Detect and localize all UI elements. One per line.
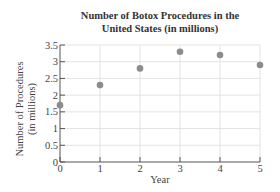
x-tick-label: 0 [57,163,62,174]
x-tick-label: 1 [97,163,102,174]
y-tick-label: 1.5 [45,106,58,117]
x-tick-label: 5 [257,163,262,174]
y-tick-label: 3 [53,56,58,67]
y-tick-label: 2.5 [45,73,58,84]
data-point [177,48,184,55]
y-axis-label: Number of Procedures (in millions) [14,49,38,169]
data-point [57,102,64,109]
y-tick-label: 0.5 [45,140,58,151]
y-tick-label: 3.5 [45,40,58,51]
data-point [217,52,224,59]
data-point [257,62,264,69]
y-axis-label-line-1: Number of Procedures [14,49,26,169]
y-tick-label: 2 [53,90,58,101]
y-axis-label-line-2: (in millions) [26,49,38,169]
scatter-plot: 00.511.522.533.5012345 [0,0,280,192]
x-tick-label: 2 [137,163,142,174]
x-tick-label: 4 [217,163,223,174]
x-tick-label: 3 [177,163,182,174]
data-point [97,82,104,89]
x-axis-label: Year [140,174,180,185]
y-tick-label: 1 [53,123,58,134]
data-point [137,65,144,72]
